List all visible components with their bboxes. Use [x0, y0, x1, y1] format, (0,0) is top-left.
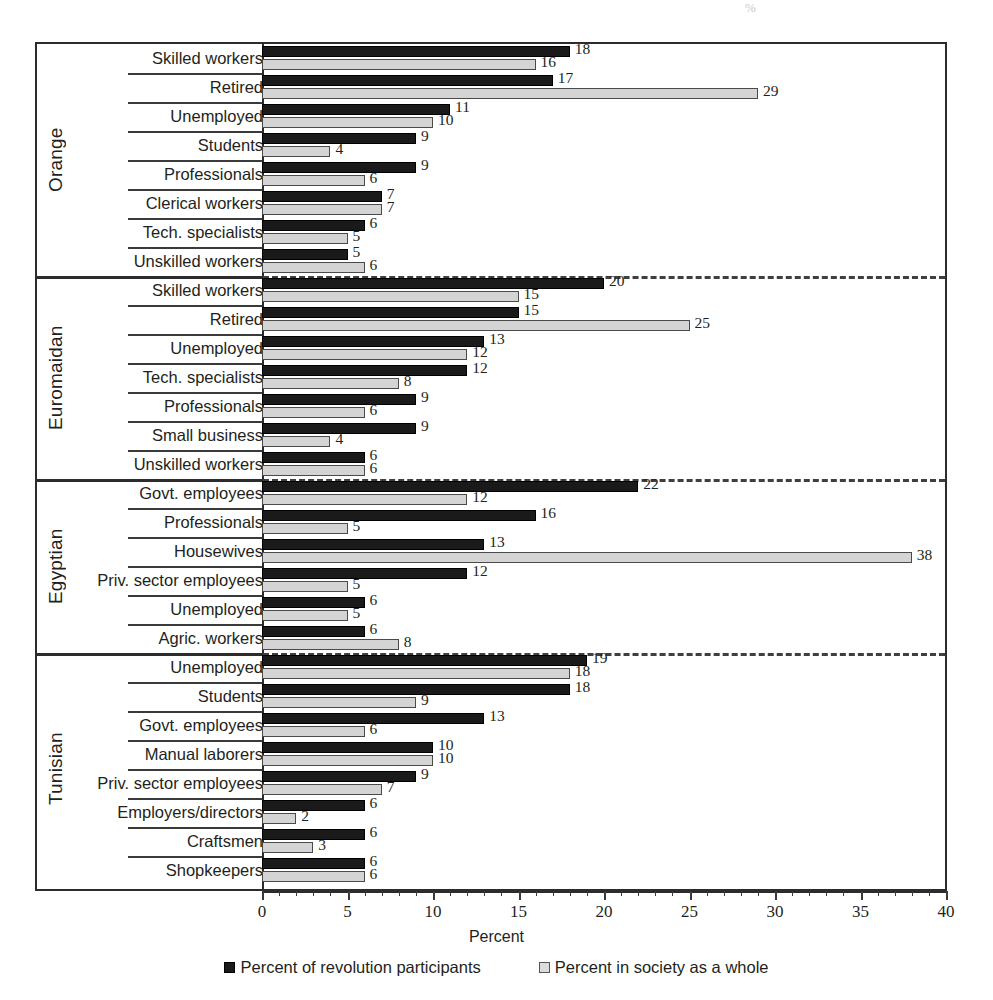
legend-item: Percent of revolution participants	[224, 958, 480, 977]
group-label-orange: Orange	[38, 44, 74, 276]
bar-value-label: 15	[524, 304, 540, 315]
bar-society	[262, 813, 296, 824]
x-tick-minor	[895, 891, 896, 896]
chart-row: Priv. sector employees97	[0, 769, 993, 798]
bar-value-label: 12	[472, 565, 488, 576]
bar-participants	[262, 684, 570, 695]
bar-value-label: 15	[524, 288, 540, 299]
group-label-euromaidan: Euromaidan	[38, 276, 74, 479]
bar-society	[262, 523, 348, 534]
bar-value-label: 16	[541, 56, 557, 67]
bar-participants	[262, 75, 553, 86]
x-tick-label: 25	[681, 902, 698, 922]
bar-value-label: 18	[575, 43, 591, 54]
bar-participants	[262, 626, 365, 637]
bar-society	[262, 726, 365, 737]
bar-value-label: 6	[370, 217, 378, 228]
bar-value-label: 20	[609, 275, 625, 286]
x-tick-label: 5	[343, 902, 352, 922]
chart-row: Unemployed1312	[0, 334, 993, 363]
chart-row: Agric. workers68	[0, 624, 993, 653]
chart-row: Tech. specialists65	[0, 218, 993, 247]
bar-value-label: 7	[387, 781, 395, 792]
chart-row: Skilled workers2015	[0, 276, 993, 305]
bar-value-label: 6	[370, 594, 378, 605]
bar-participants	[262, 858, 365, 869]
x-tick-label: 40	[938, 902, 955, 922]
bar-value-label: 5	[353, 230, 361, 241]
bar-society	[262, 262, 365, 273]
legend-label: Percent of revolution participants	[240, 958, 480, 977]
chart-row: Manual laborers1010	[0, 740, 993, 769]
x-tick-minor	[912, 891, 913, 896]
bar-participants	[262, 278, 604, 289]
chart-row: Tech. specialists128	[0, 363, 993, 392]
x-tick-label: 10	[425, 902, 442, 922]
x-tick-minor	[313, 891, 314, 896]
bar-value-label: 9	[421, 768, 429, 779]
x-tick-minor	[792, 891, 793, 896]
x-tick-minor	[296, 891, 297, 896]
bar-value-label: 11	[455, 101, 470, 112]
bar-participants	[262, 510, 536, 521]
chart-row: Clerical workers77	[0, 189, 993, 218]
bar-participants	[262, 597, 365, 608]
bar-value-label: 4	[335, 143, 343, 154]
chart-row: Unemployed1110	[0, 102, 993, 131]
legend-swatch-participants	[224, 962, 235, 973]
x-tick-major	[775, 891, 777, 900]
x-tick-minor	[843, 891, 844, 896]
bar-value-label: 12	[472, 346, 488, 357]
bar-society	[262, 59, 536, 70]
x-tick-major	[348, 891, 350, 900]
bar-society	[262, 842, 313, 853]
bar-value-label: 6	[370, 723, 378, 734]
bar-value-label: 8	[404, 636, 412, 647]
bar-value-label: 29	[763, 85, 779, 96]
x-tick-minor	[758, 891, 759, 896]
bar-participants	[262, 220, 365, 231]
chart-row: Students94	[0, 131, 993, 160]
x-tick-major	[604, 891, 606, 900]
bar-participants	[262, 539, 484, 550]
bar-society	[262, 88, 758, 99]
bar-society	[262, 465, 365, 476]
x-tick-major	[262, 891, 264, 900]
bar-value-label: 9	[421, 694, 429, 705]
bar-value-label: 25	[695, 317, 711, 328]
bar-value-label: 9	[421, 159, 429, 170]
x-tick-minor	[570, 891, 571, 896]
x-tick-minor	[399, 891, 400, 896]
bar-society	[262, 755, 433, 766]
x-tick-label: 20	[596, 902, 613, 922]
bar-value-label: 6	[370, 826, 378, 837]
bar-participants	[262, 481, 638, 492]
bar-value-label: 5	[353, 246, 361, 257]
bar-participants	[262, 742, 433, 753]
x-tick-minor	[655, 891, 656, 896]
bar-value-label: 10	[438, 114, 454, 125]
scan-artifact: %	[745, 2, 767, 14]
bar-society	[262, 581, 348, 592]
bar-value-label: 18	[575, 681, 591, 692]
chart-row: Professionals96	[0, 392, 993, 421]
bar-value-label: 13	[489, 536, 505, 547]
bar-value-label: 38	[917, 549, 933, 560]
grouped-bar-chart: % Skilled workers1816Retired1729Unemploy…	[0, 0, 993, 1000]
bar-participants	[262, 307, 519, 318]
legend-item: Percent in society as a whole	[539, 958, 769, 977]
bar-society	[262, 233, 348, 244]
x-tick-minor	[450, 891, 451, 896]
bar-society	[262, 697, 416, 708]
x-axis-title: Percent	[0, 928, 993, 946]
bar-participants	[262, 800, 365, 811]
chart-row: Govt. employees136	[0, 711, 993, 740]
x-tick-minor	[707, 891, 708, 896]
bar-value-label: 10	[438, 752, 454, 763]
chart-row: Priv. sector employees125	[0, 566, 993, 595]
x-tick-label: 15	[510, 902, 527, 922]
bar-value-label: 19	[592, 652, 608, 663]
bar-society	[262, 291, 519, 302]
bar-value-label: 9	[421, 130, 429, 141]
bar-value-label: 3	[318, 839, 326, 850]
